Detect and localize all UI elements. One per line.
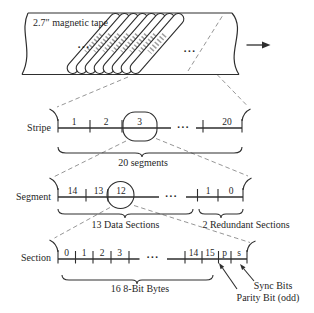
segment-row-label: Segment bbox=[16, 191, 51, 202]
fan-stripe-to-segment-left bbox=[55, 141, 127, 177]
tape-label: 2.7″ magnetic tape bbox=[33, 17, 109, 28]
stripe-row-dots: ... bbox=[177, 118, 190, 130]
fan-stripe-to-segment-right bbox=[156, 139, 248, 177]
segment-cell-label: 12 bbox=[116, 186, 126, 196]
section-row-label: Section bbox=[21, 252, 51, 263]
caption-2-redundant-sections: 2 Redundant Sections bbox=[202, 219, 289, 230]
stripe-corner-hook-right bbox=[242, 109, 251, 121]
section-corner-hook-right bbox=[247, 241, 256, 252]
segment-cell-label: 13 bbox=[94, 186, 104, 196]
segment-cell-label: 1 bbox=[206, 186, 211, 196]
segment-cell-label: 14 bbox=[68, 186, 78, 196]
tape-dots-left: ... bbox=[78, 38, 91, 50]
parity-callout-arrow-icon bbox=[219, 263, 237, 289]
right-arrow-icon bbox=[247, 42, 271, 49]
stripe-cell-label: 2 bbox=[104, 117, 109, 127]
segment-cell-label: 0 bbox=[229, 186, 234, 196]
fan-tape-to-stripe-left bbox=[57, 77, 128, 107]
section-cell-label: 14 bbox=[189, 248, 199, 258]
brace-13-data-sections bbox=[58, 209, 193, 218]
section-cell-label: s bbox=[237, 248, 241, 258]
diagram-canvas: 2.7″ magnetic tape ... ... Stripe 1 2 3 … bbox=[0, 0, 314, 313]
tape-torn-edge-left bbox=[22, 13, 28, 75]
stripe-row: Stripe 1 2 3 ... 20 20 segments bbox=[27, 109, 250, 168]
segment-row: Segment 14 13 12 ... 1 0 13 Data Section… bbox=[16, 178, 290, 230]
section-cell-label: p bbox=[222, 248, 227, 258]
stripe-cell-label: 3 bbox=[137, 117, 142, 127]
section-row: Section 0 1 2 3 ... 14 15 p s 16 8-Bit B… bbox=[21, 240, 299, 304]
stripe-row-label: Stripe bbox=[27, 122, 51, 133]
stripe-cell-label: 1 bbox=[72, 117, 77, 127]
brace-2-redundant-sections bbox=[199, 209, 243, 218]
section-row-dots: ... bbox=[147, 248, 160, 260]
section-corner-hook-left bbox=[50, 240, 59, 252]
stripe-cell-label: 20 bbox=[222, 117, 232, 127]
section-cell-label: 0 bbox=[64, 248, 69, 258]
section-cell-label: 15 bbox=[205, 248, 215, 258]
tape-band: 2.7″ magnetic tape ... ... bbox=[22, 11, 271, 76]
segment-corner-hook-right bbox=[243, 178, 252, 190]
segment-row-dots: ... bbox=[165, 187, 178, 199]
section-cell-label: 1 bbox=[82, 248, 87, 258]
caption-16-8bit-bytes: 16 8-Bit Bytes bbox=[111, 283, 169, 294]
sync-bits-label: Sync Bits bbox=[254, 280, 293, 291]
brace-20-segments bbox=[58, 147, 242, 157]
segment-corner-hook-left bbox=[50, 178, 59, 190]
section-cell-label: 3 bbox=[117, 248, 122, 258]
section-cell-label: 2 bbox=[100, 248, 105, 258]
caption-20-segments: 20 segments bbox=[118, 157, 168, 168]
tape-structure-diagram: 2.7″ magnetic tape ... ... Stripe 1 2 3 … bbox=[0, 0, 314, 313]
tape-torn-edge-right bbox=[232, 13, 239, 75]
sync-callout-arrow-icon bbox=[240, 264, 254, 281]
tape-dots-right: ... bbox=[184, 42, 197, 54]
stripe-corner-hook-left bbox=[50, 109, 59, 121]
parity-bit-label: Parity Bit (odd) bbox=[237, 292, 300, 304]
caption-13-data-sections: 13 Data Sections bbox=[92, 219, 160, 230]
fan-tape-to-stripe-right bbox=[217, 75, 248, 107]
